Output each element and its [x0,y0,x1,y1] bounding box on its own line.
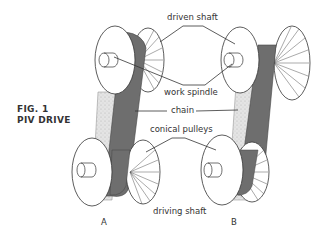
conical-pulley-b-bottom-front [201,135,243,205]
conical-pulley-a-bottom-front [72,138,112,206]
label-chain: chain [170,105,195,115]
figure-title: PIV DRIVE [17,115,71,126]
driving-shaft-b [204,163,212,177]
label-conical-pulleys: conical pulleys [149,124,214,134]
assembly-a [72,26,164,206]
conical-pulley-b-top-front [221,27,259,93]
conical-pulley-a-top-front [95,26,135,94]
conical-pulley-b-top-back [274,26,310,100]
label-driven-shaft: driven shaft [166,12,219,22]
work-spindle-b [224,53,234,67]
work-spindle-a [99,53,109,67]
label-driving-shaft: driving shaft [152,206,207,216]
assembly-b [201,26,310,205]
conical-pulley-a-bottom-back [126,140,160,204]
driving-shaft-a [77,163,85,177]
label-variant-a: A [100,217,108,227]
figure-caption: FIG. 1 PIV DRIVE [17,104,71,126]
figure-number: FIG. 1 [17,104,71,115]
label-variant-b: B [230,217,238,227]
label-work-spindle: work spindle [163,87,219,97]
